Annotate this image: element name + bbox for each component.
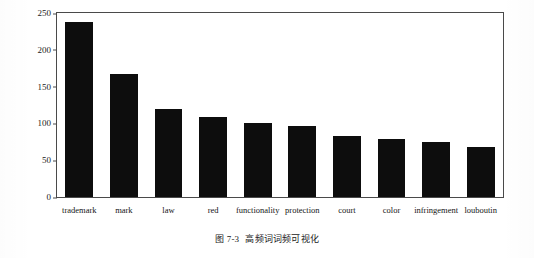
x-tick-label: red — [208, 206, 219, 215]
x-tick-label: law — [162, 206, 174, 215]
x-tick-label: mark — [115, 206, 132, 215]
bar — [422, 142, 450, 197]
x-tick-label: functionality — [236, 206, 279, 215]
bar — [244, 123, 272, 197]
bar — [110, 74, 138, 197]
bar — [199, 117, 227, 197]
x-tick-label: infringement — [414, 206, 458, 215]
y-tick-label: 200 — [38, 45, 58, 54]
x-tick-label: louboutin — [464, 206, 497, 215]
x-tick-label: protection — [285, 206, 319, 215]
figure-caption: 图 7-3高频词词频可视化 — [0, 232, 534, 245]
figure-page: 050100150200250 trademarkmarklawredfunct… — [0, 0, 534, 258]
bar-chart: 050100150200250 trademarkmarklawredfunct… — [22, 8, 508, 220]
x-tick-label: court — [338, 206, 355, 215]
y-tick-label: 250 — [38, 9, 58, 18]
bar — [155, 109, 183, 197]
y-tick-label: 150 — [38, 82, 58, 91]
bar — [333, 136, 361, 197]
bar — [65, 22, 93, 197]
y-tick-label: 100 — [38, 119, 58, 128]
y-tick-label: 0 — [47, 193, 58, 202]
y-tick-label: 50 — [42, 156, 57, 165]
bar — [378, 139, 406, 197]
bar — [467, 147, 495, 197]
figure-caption-text: 高频词词频可视化 — [245, 234, 319, 244]
x-tick-label: trademark — [62, 206, 96, 215]
bar — [288, 126, 316, 197]
figure-caption-number: 图 7-3 — [215, 234, 239, 244]
bar-series — [57, 13, 503, 197]
plot-area: 050100150200250 trademarkmarklawredfunct… — [56, 12, 504, 198]
x-tick-label: color — [383, 206, 400, 215]
